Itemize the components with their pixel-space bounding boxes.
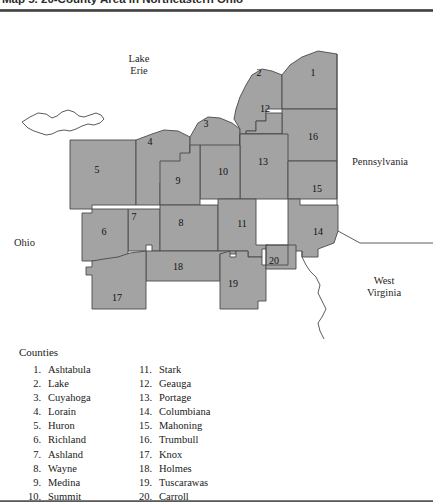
legend-item-name: Ashtabula xyxy=(41,363,91,377)
label-west-virginia: West Virginia xyxy=(356,275,412,298)
legend-item-number: 11. xyxy=(130,363,152,377)
legend-item: 6.Richland xyxy=(19,433,139,447)
county-number-18: 18 xyxy=(170,262,186,272)
legend-item-number: 8. xyxy=(19,462,41,476)
legend-item-number: 19. xyxy=(130,476,152,490)
title-strip: Map 5. 20-County Area in Northeastern Oh… xyxy=(0,0,433,13)
title-divider xyxy=(0,9,433,12)
county-number-20: 20 xyxy=(266,256,282,266)
legend-item-number: 1. xyxy=(19,363,41,377)
legend-item: 8.Wayne xyxy=(19,462,139,476)
legend-item-name: Lake xyxy=(41,377,69,391)
legend-item-name: Mahoning xyxy=(152,419,202,433)
legend-item: 14.Columbiana xyxy=(130,405,280,419)
legend-item-number: 16. xyxy=(130,433,152,447)
label-ohio: Ohio xyxy=(14,237,62,249)
legend-item: 4.Lorain xyxy=(19,405,139,419)
county-number-14: 14 xyxy=(310,227,326,237)
legend-column-left: 1.Ashtabula2.Lake3.Cuyahoga4.Lorain5.Hur… xyxy=(19,363,139,504)
county-number-19: 19 xyxy=(225,279,241,289)
county-number-17: 17 xyxy=(109,293,125,303)
county-number-5: 5 xyxy=(89,165,105,175)
legend-item-name: Holmes xyxy=(152,462,192,476)
county-number-12: 12 xyxy=(257,104,273,114)
legend-item-number: 9. xyxy=(19,476,41,490)
legend-item: 16.Trumbull xyxy=(130,433,280,447)
legend-item: 13.Portage xyxy=(130,391,280,405)
legend-item: 9.Medina xyxy=(19,476,139,490)
legend-item: 18.Holmes xyxy=(130,462,280,476)
legend-item-name: Tuscarawas xyxy=(152,476,208,490)
legend-item: 1.Ashtabula xyxy=(19,363,139,377)
legend-item-name: Lorain xyxy=(41,405,76,419)
legend-item-name: Medina xyxy=(41,476,80,490)
legend-item-name: Cuyahoga xyxy=(41,391,91,405)
legend-item-name: Ashland xyxy=(41,448,83,462)
county-shape-1 xyxy=(282,51,337,109)
legend-item-name: Portage xyxy=(152,391,191,405)
legend-item: 19.Tuscarawas xyxy=(130,476,280,490)
county-shape-8 xyxy=(160,205,218,251)
ohio-river-south xyxy=(302,257,326,339)
label-pennsylvania: Pennsylvania xyxy=(352,156,432,168)
legend-item-number: 17. xyxy=(130,448,152,462)
legend-heading: Counties xyxy=(19,346,58,358)
county-number-13: 13 xyxy=(255,157,271,167)
map-figure: .cty { fill: #a3a3a3; stroke: #4a4a4a; s… xyxy=(0,13,433,343)
legend-item: 5.Huron xyxy=(19,419,139,433)
legend-item-name: Columbiana xyxy=(152,405,210,419)
county-number-9: 9 xyxy=(170,176,186,186)
legend-item: 11.Stark xyxy=(130,363,280,377)
legend-item-name: Richland xyxy=(41,433,86,447)
legend-item-number: 6. xyxy=(19,433,41,447)
legend-item-number: 2. xyxy=(19,377,41,391)
county-number-1: 1 xyxy=(305,68,321,78)
bottom-divider xyxy=(0,500,433,502)
legend-item-number: 12. xyxy=(130,377,152,391)
legend: Counties 1.Ashtabula2.Lake3.Cuyahoga4.Lo… xyxy=(0,343,433,504)
legend-item-number: 15. xyxy=(130,419,152,433)
legend-item-name: Trumbull xyxy=(152,433,198,447)
legend-item-name: Knox xyxy=(152,448,182,462)
label-lake-erie: Lake Erie xyxy=(108,53,170,76)
legend-item-name: Stark xyxy=(152,363,181,377)
legend-item-number: 4. xyxy=(19,405,41,419)
legend-item: 7.Ashland xyxy=(19,448,139,462)
legend-item-name: Huron xyxy=(41,419,75,433)
legend-item: 2.Lake xyxy=(19,377,139,391)
legend-item-number: 13. xyxy=(130,391,152,405)
county-number-10: 10 xyxy=(215,167,231,177)
county-number-8: 8 xyxy=(173,218,189,228)
legend-item: 12.Geauga xyxy=(130,377,280,391)
ohio-river-line xyxy=(338,231,433,243)
legend-item-number: 18. xyxy=(130,462,152,476)
county-number-11: 11 xyxy=(234,219,250,229)
county-number-3: 3 xyxy=(198,119,214,129)
county-number-2: 2 xyxy=(251,68,267,78)
legend-column-right: 11.Stark12.Geauga13.Portage14.Columbiana… xyxy=(130,363,280,504)
legend-item-number: 3. xyxy=(19,391,41,405)
legend-item-number: 7. xyxy=(19,448,41,462)
legend-item: 3.Cuyahoga xyxy=(19,391,139,405)
county-number-7: 7 xyxy=(126,212,142,222)
county-number-16: 16 xyxy=(305,132,321,142)
legend-item-number: 5. xyxy=(19,419,41,433)
legend-item: 15.Mahoning xyxy=(130,419,280,433)
legend-item-name: Wayne xyxy=(41,462,77,476)
county-number-6: 6 xyxy=(96,227,112,237)
legend-item: 17.Knox xyxy=(130,448,280,462)
county-number-15: 15 xyxy=(309,184,325,194)
sandusky-bay-outline xyxy=(22,110,104,135)
county-number-4: 4 xyxy=(142,137,158,147)
legend-item-name: Geauga xyxy=(152,377,191,391)
page-title: Map 5. 20-County Area in Northeastern Oh… xyxy=(2,0,243,5)
legend-item-number: 14. xyxy=(130,405,152,419)
